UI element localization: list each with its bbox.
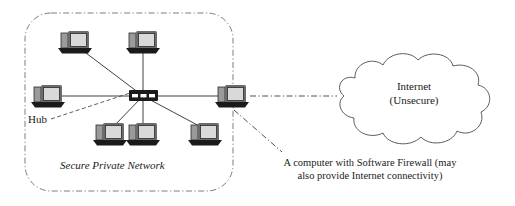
hub-label: Hub xyxy=(28,113,47,125)
workstation-top-right xyxy=(126,31,160,54)
cloud-label-line1: Internet xyxy=(397,80,431,92)
cloud-label-line2: (Unsecure) xyxy=(390,94,439,107)
firewall-caption-leader xyxy=(234,110,282,152)
lan-links xyxy=(62,50,218,128)
workstation-mid-left xyxy=(31,85,65,108)
workstation-bottom-mid xyxy=(126,123,160,146)
network-hub-icon xyxy=(129,90,158,101)
firewall-caption-line2: also provide Internet connectivity) xyxy=(298,170,443,182)
workstation-bottom-right xyxy=(188,123,222,146)
firewall-caption-line1: A computer with Software Firewall (may xyxy=(284,157,458,169)
firewall-computer-icon xyxy=(215,85,249,108)
workstation-top-left xyxy=(58,31,92,54)
secure-network-label: Secure Private Network xyxy=(60,159,166,171)
network-diagram: Internet (Unsecure) Hub Secure Private N… xyxy=(0,0,515,206)
network-diagram-canvas: Internet (Unsecure) Hub Secure Private N… xyxy=(0,0,515,206)
workstation-bottom-left xyxy=(93,123,127,146)
